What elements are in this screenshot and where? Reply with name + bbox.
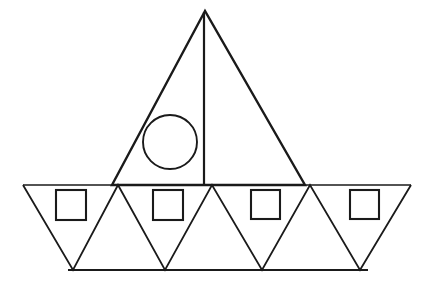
porthole-circle <box>143 115 197 169</box>
square-2 <box>153 190 183 220</box>
figure-canvas: Sailboat line drawing composed of triang… <box>0 0 430 297</box>
sailboat-figure: Sailboat line drawing composed of triang… <box>0 0 430 297</box>
hull-zigzag <box>23 185 411 270</box>
square-1 <box>56 190 86 220</box>
sail-triangle <box>112 11 305 185</box>
square-3 <box>251 190 280 219</box>
square-4 <box>350 190 379 219</box>
